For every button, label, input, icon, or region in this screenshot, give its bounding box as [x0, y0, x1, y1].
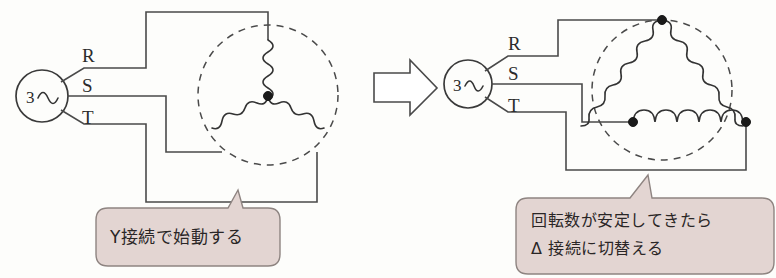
right-source-sine-wave-icon	[465, 81, 483, 91]
left-diagram-group: 3 R S T Y接続で始動する	[16, 12, 338, 266]
right-delta-node-right	[742, 118, 751, 127]
transition-arrow-group	[374, 60, 437, 115]
right-wire-T	[485, 97, 746, 170]
right-coil-RS	[581, 20, 662, 126]
circuit-diagram-svg: 3 R S T Y接続で始動する	[0, 0, 776, 278]
left-phase-label-S: S	[82, 75, 93, 96]
three-phase-source-circle	[16, 70, 68, 122]
left-wire-T	[61, 110, 317, 202]
right-callout-text-line2: Δ 接続に切替える	[531, 239, 664, 258]
right-delta-node-left	[629, 118, 638, 127]
right-source-phase-count-label: 3	[453, 76, 462, 95]
left-coil-S	[212, 96, 268, 129]
left-callout-text: Y接続で始動する	[109, 227, 243, 247]
left-coil-T	[268, 96, 324, 129]
right-three-phase-source-circle	[444, 60, 492, 108]
left-phase-label-R: R	[82, 45, 95, 66]
right-callout-text-line1: 回転数が安定してきたら	[531, 211, 713, 230]
right-motor-boundary-dashed-circle	[592, 20, 732, 160]
right-phase-label-S: S	[508, 63, 519, 84]
left-star-point-node	[264, 92, 273, 101]
right-callout-bubble: 回転数が安定してきたら Δ 接続に切替える	[516, 175, 774, 274]
diagram-canvas: 3 R S T Y接続で始動する	[0, 0, 776, 278]
source-phase-count-label: 3	[26, 88, 35, 107]
transition-arrow-icon	[374, 60, 437, 115]
right-delta-node-top	[658, 16, 667, 25]
right-phase-label-R: R	[508, 33, 521, 54]
right-diagram-group: 3 R S T 回転数が安	[444, 16, 774, 275]
right-phase-label-T: T	[508, 95, 520, 116]
source-sine-wave-icon	[38, 93, 58, 104]
left-phase-label-T: T	[82, 107, 94, 128]
